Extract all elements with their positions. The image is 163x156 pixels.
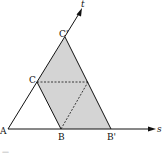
coordinate-diagram: A B B' C C' s t — [0, 0, 163, 156]
t-axis-arrow-icon — [77, 8, 83, 17]
label-b-prime: B' — [107, 132, 116, 142]
label-c-prime: C' — [59, 29, 68, 39]
label-c: C — [29, 75, 36, 85]
label-s-axis: s — [157, 124, 162, 134]
label-a: A — [0, 126, 7, 136]
label-b: B — [58, 132, 65, 142]
caption-text: — — [2, 148, 9, 156]
label-t-axis: t — [81, 0, 85, 9]
s-axis-arrow-icon — [148, 127, 156, 132]
shaded-parallelogram — [37, 37, 111, 129]
